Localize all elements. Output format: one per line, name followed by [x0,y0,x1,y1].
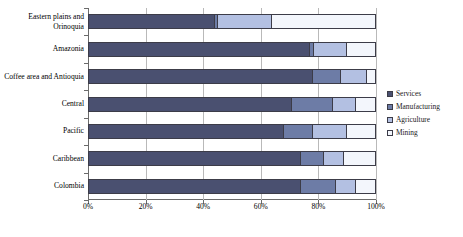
bar-segment-manufacturing [313,69,342,84]
plot-area [88,8,377,200]
bar-segment-mining [367,69,376,84]
x-axis-tick-label: 20% [139,202,153,212]
stacked-bar-chart: Eastern plains and OrinoquiaAmazoniaCoff… [0,0,463,237]
y-axis-tick [84,35,88,36]
x-axis-tick-labels: 0%20%40%60%80%100% [88,202,377,216]
x-axis-line [88,199,377,200]
y-axis-labels: Eastern plains and OrinoquiaAmazoniaCoff… [0,8,84,200]
bar-row [88,69,377,84]
y-axis-category-label: Caribbean [0,154,84,164]
bar-segment-manufacturing [292,97,332,112]
bar-segment-manufacturing [284,124,313,139]
x-axis-tick-label: 40% [196,202,210,212]
bar-row [88,124,377,139]
legend-item[interactable]: Agriculture [387,114,461,126]
bar-segment-mining [344,151,376,166]
legend-swatch-icon [387,117,393,123]
legend-label: Manufacturing [396,103,440,111]
bar-segment-manufacturing [301,151,324,166]
legend-swatch-icon [387,104,393,110]
bar-segment-agriculture [341,69,367,84]
legend-label: Services [396,90,421,98]
x-axis-tick-label: 80% [311,202,325,212]
legend-label: Mining [396,129,418,137]
y-axis-tick [84,63,88,64]
bar-segment-agriculture [314,42,347,57]
x-axis-tick-label: 60% [254,202,268,212]
bar-segment-services [88,179,301,194]
bar-segment-mining [272,14,376,29]
bar-row [88,14,377,29]
y-axis-tick [84,90,88,91]
y-axis-category-label: Colombia [0,181,84,191]
y-axis-category-label: Coffee area and Antioquia [0,72,84,82]
y-axis-tick [84,145,88,146]
bar-segment-agriculture [313,124,348,139]
bar-segment-services [88,14,215,29]
y-axis-tick [84,118,88,119]
y-axis-tick [84,200,88,201]
y-axis-tick [84,173,88,174]
bar-row [88,42,377,57]
legend-swatch-icon [387,130,393,136]
legend-item[interactable]: Manufacturing [387,101,461,113]
bar-segment-mining [347,124,376,139]
bar-segment-services [88,97,292,112]
y-axis-tick [84,8,88,9]
bar-segment-mining [347,42,376,57]
bar-segment-services [88,42,310,57]
y-axis-category-label: Eastern plains and Orinoquia [0,12,84,31]
legend-label: Agriculture [396,116,430,124]
bar-segment-agriculture [324,151,344,166]
bar-segment-services [88,124,284,139]
bar-segment-mining [356,97,376,112]
bar-segment-agriculture [333,97,356,112]
bar-segment-manufacturing [301,179,336,194]
bar-segment-services [88,69,313,84]
x-axis-tick-label: 100% [367,202,385,212]
bar-segment-services [88,151,301,166]
bar-row [88,179,377,194]
bar-row [88,151,377,166]
chart-legend: ServicesManufacturingAgricultureMining [387,88,461,140]
bar-segment-agriculture [218,14,273,29]
bar-segment-mining [356,179,376,194]
bar-segment-agriculture [336,179,356,194]
bar-row [88,97,377,112]
legend-item[interactable]: Mining [387,127,461,139]
y-axis-category-label: Central [0,99,84,109]
legend-item[interactable]: Services [387,88,461,100]
x-axis-tick-label: 0% [83,202,93,212]
legend-swatch-icon [387,91,393,97]
y-axis-category-label: Amazonia [0,44,84,54]
y-axis-category-label: Pacific [0,126,84,136]
